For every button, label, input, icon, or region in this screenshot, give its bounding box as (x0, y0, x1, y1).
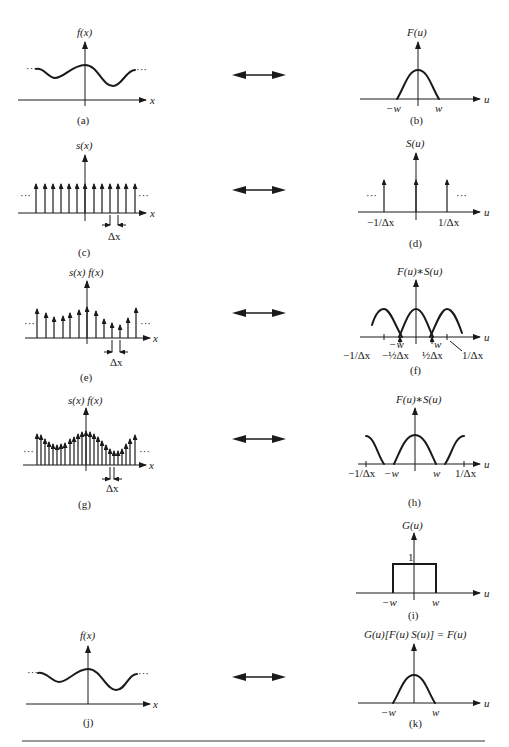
x-label: x (149, 94, 155, 106)
panel-g: ··· ··· s(x) f(x) x Δx (g) (23, 394, 154, 511)
replica-right (430, 309, 462, 337)
ellipsis-right: ··· (140, 317, 151, 329)
caption-d: (d) (409, 237, 422, 250)
ellipsis-left: ··· (24, 317, 35, 329)
u-label: u (484, 93, 490, 105)
replica-right (445, 436, 464, 464)
y-label: G(u)[F(u) S(u)] = F(u) (364, 628, 467, 641)
replica-left (372, 309, 402, 337)
tick-delta-x: Δx (110, 356, 123, 368)
y-label: f(x) (80, 629, 96, 642)
caption-h: (h) (408, 496, 421, 509)
panel-f: F(u)∗S(u) u −1/Δx −w −½Δx ½Δx w 1/Δx (f) (343, 265, 490, 377)
ellipsis-right: ··· (139, 445, 150, 457)
fourier-pair-arrow-icon (232, 309, 286, 317)
u-label: u (484, 458, 490, 470)
fourier-pair-arrow-icon (232, 71, 286, 79)
delta-x-marker (102, 467, 122, 479)
panel-e: ··· ··· s(x) f(x) x Δx (e) (24, 266, 158, 384)
panel-i: 1 G(u) u −w w (i) (356, 519, 490, 622)
sampled-impulses (37, 307, 136, 338)
caption-g: (g) (78, 498, 91, 511)
tick-neg-inv-dx: −1/Δx (367, 216, 395, 228)
replica-left (366, 436, 384, 464)
ellipsis-left: ··· (366, 189, 377, 201)
caption-f: (f) (410, 364, 421, 377)
y-label: F(u)∗S(u) (395, 393, 442, 406)
panel-d: ··· ··· S(u) u −1/Δx 1/Δx (d) (358, 137, 490, 250)
panel-b: F(u) u −w w (b) (360, 26, 490, 127)
x-label: x (149, 207, 155, 219)
delta-x-marker (102, 215, 126, 225)
caption-b: (b) (410, 114, 423, 127)
sampling-theorem-figure: ··· ··· f(x) x (a) F(u) u −w w (b) (0, 0, 509, 747)
y-label: s(x) f(x) (68, 394, 103, 407)
tick-neg-inv-dx: −1/Δx (348, 467, 376, 479)
x-label: x (152, 698, 158, 710)
ellipsis-left: ··· (20, 189, 31, 201)
delta-x-marker (104, 340, 128, 352)
caption-k: (k) (409, 717, 422, 730)
x-label: x (152, 332, 158, 344)
tick-neg-w: −w (384, 467, 399, 479)
y-label: f(x) (77, 26, 93, 39)
ellipsis-right: ··· (456, 189, 467, 201)
fourier-pair-arrow-icon (232, 435, 286, 443)
ellipsis-right: ··· (136, 63, 147, 75)
ellipsis-right: ··· (138, 189, 149, 201)
caption-j: (j) (83, 716, 94, 729)
impulse-train (36, 184, 135, 213)
ellipsis-right: ··· (138, 667, 149, 679)
tick-w: w (433, 467, 441, 479)
tick-inv-dx: 1/Δx (438, 216, 460, 228)
tick-delta-x: Δx (108, 230, 121, 242)
x-label: x (148, 459, 154, 471)
y-label: s(x) f(x) (69, 266, 104, 279)
panel-c: ··· ··· s(x) x Δx (c) (18, 139, 155, 259)
level-one: 1 (408, 551, 414, 563)
panel-h: F(u)∗S(u) u −1/Δx −w w 1/Δx (h) (348, 393, 490, 509)
tick-neg-w: −w (386, 102, 401, 114)
caption-c: (c) (78, 246, 91, 259)
u-label: u (484, 697, 490, 709)
tick-w: w (435, 102, 443, 114)
panel-j: ··· ··· f(x) x (j) (26, 629, 158, 729)
ellipsis-left: ··· (23, 445, 34, 457)
tick-neg-half-inv-dx: −½Δx (382, 349, 410, 361)
ellipsis-left: ··· (26, 62, 37, 74)
tick-neg-inv-dx: −1/Δx (343, 349, 371, 361)
y-label: S(u) (406, 137, 425, 150)
y-label: F(u)∗S(u) (396, 265, 443, 278)
tick-w: w (434, 338, 442, 350)
y-label: G(u) (402, 519, 423, 532)
y-label: F(u) (406, 26, 427, 39)
panel-k: G(u)[F(u) S(u)] = F(u) u −w w (k) (358, 628, 490, 730)
caption-e: (e) (80, 371, 93, 384)
u-label: u (484, 587, 490, 599)
tick-half-inv-dx: ½Δx (422, 349, 443, 361)
tick-w: w (432, 706, 440, 718)
caption-i: (i) (408, 609, 419, 622)
y-label: s(x) (76, 139, 93, 152)
ellipsis-left: ··· (27, 666, 38, 678)
tick-delta-x: Δx (106, 482, 119, 494)
u-label: u (484, 206, 490, 218)
fourier-pair-arrow-icon (232, 186, 286, 194)
tick-w: w (432, 596, 440, 608)
u-label: u (484, 331, 490, 343)
fourier-pair-arrow-icon (232, 673, 286, 681)
panel-a: ··· ··· f(x) x (a) (18, 26, 155, 127)
caption-a: (a) (77, 114, 90, 127)
tick-neg-w: −w (382, 596, 397, 608)
tick-neg-w: −w (381, 706, 396, 718)
dense-sampled-impulses (37, 431, 135, 465)
tick-inv-dx: 1/Δx (455, 467, 477, 479)
tick-inv-dx: 1/Δx (462, 349, 484, 361)
